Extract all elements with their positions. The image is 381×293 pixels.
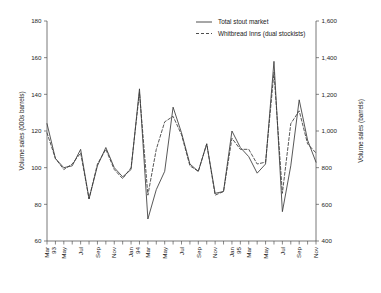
x-axis-tick-label-group: May: [161, 246, 168, 259]
y-axis-right-tick-label: 600: [322, 201, 333, 208]
legend-label-2: Whitbread Inns (dual stockists): [218, 30, 305, 38]
x-axis-tick-label-group: Nov: [211, 246, 218, 258]
y-axis-right-tick-label: 800: [322, 164, 333, 171]
x-axis-tick-label-group: Jan95: [228, 246, 242, 257]
x-axis-tick-label: Jan: [228, 246, 235, 257]
y-axis-left-tick-label: 120: [31, 127, 42, 134]
x-axis-tick-label: Mar: [144, 247, 151, 258]
y-axis-right-tick-label: 1,600: [322, 17, 338, 24]
x-axis-tick-label: Mar: [43, 247, 50, 258]
x-axis-tick-label-group: Sep: [195, 246, 202, 258]
x-axis-tick-label-group: Jul: [279, 247, 286, 255]
x-axis-tick-label-group: Mar93: [43, 246, 57, 257]
x-axis-tick-label: Nov: [110, 246, 117, 258]
y-axis-right-title: Volume sales (barrels): [357, 99, 365, 163]
y-axis-left-tick-label: 100: [31, 164, 42, 171]
y-axis-right-tick-label: 1,000: [322, 127, 338, 134]
x-axis-tick-label: Sep: [195, 246, 202, 258]
x-axis-tick-label-group: Jul: [77, 247, 84, 255]
data-series: [47, 61, 316, 219]
chart-canvas: Total stout marketWhitbread Inns (dual s…: [0, 0, 381, 293]
x-axis-tick-label: Jul: [77, 247, 84, 255]
x-axis-tick-label-group: Mar: [144, 247, 151, 258]
x-axis-tick-label: Nov: [312, 246, 319, 258]
x-axis-tick-label-year: 94: [134, 246, 141, 253]
y-axis-left-tick-label: 160: [31, 54, 42, 61]
x-axis-tick-label: Jan: [127, 246, 134, 257]
y-axis-left-tick-label: 180: [31, 17, 42, 24]
x-axis-tick-label: Sep: [295, 246, 302, 258]
x-axis-tick-label: Mar: [245, 247, 252, 258]
y-axis-right-tick-label: 400: [322, 237, 333, 244]
y-axis-left-tick-label: 80: [35, 201, 42, 208]
series-line-1: [47, 61, 316, 219]
y-axis-left-title: Volume sales (000s barrels): [18, 91, 26, 170]
x-axis-tick-label-group: Nov: [110, 246, 117, 258]
x-axis-tick-label-year: 93: [50, 246, 57, 253]
x-axis-tick-label-group: Nov: [312, 246, 319, 258]
x-axis-tick-label: May: [60, 246, 67, 259]
y-axis-left-tick-label: 140: [31, 91, 42, 98]
x-axis-tick-label-group: Sep: [295, 246, 302, 258]
y-axis-right-tick-label: 1,200: [322, 91, 338, 98]
axis-labels: 60801001201401601804006008001,0001,2001,…: [18, 17, 365, 259]
x-axis-tick-label: Sep: [94, 246, 101, 258]
chart-legend: Total stout marketWhitbread Inns (dual s…: [196, 18, 305, 38]
x-axis-tick-label-group: Jan94: [127, 246, 141, 257]
x-axis-tick-label-group: Sep: [94, 246, 101, 258]
x-axis-tick-label-group: May: [262, 246, 269, 259]
x-axis-tick-label: Nov: [211, 246, 218, 258]
legend-label-1: Total stout market: [218, 18, 269, 25]
x-axis-tick-label: May: [161, 246, 168, 259]
x-axis-tick-label-group: Jul: [178, 247, 185, 255]
x-axis-tick-label: Jul: [178, 247, 185, 255]
y-axis-left-tick-label: 60: [35, 237, 42, 244]
x-axis-tick-label-group: May: [60, 246, 67, 259]
x-axis-tick-label: Jul: [279, 247, 286, 255]
x-axis-tick-label: May: [262, 246, 269, 259]
y-axis-right-tick-label: 1,400: [322, 54, 338, 61]
x-axis-tick-label-group: Mar: [245, 247, 252, 258]
stout-volume-sales-chart: Total stout marketWhitbread Inns (dual s…: [0, 0, 381, 293]
x-axis-tick-label-year: 95: [235, 246, 242, 253]
